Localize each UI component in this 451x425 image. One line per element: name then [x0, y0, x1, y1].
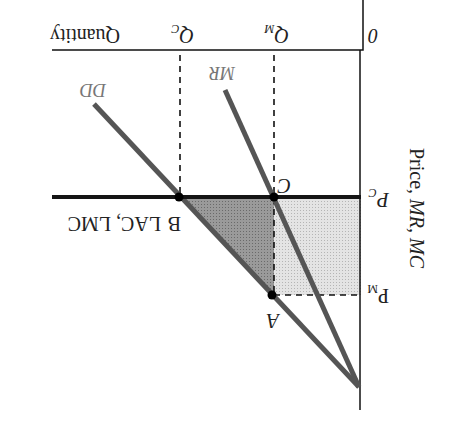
qm-label: QM — [264, 22, 289, 47]
price-axis-label: Price, MR, MC — [406, 148, 428, 269]
point-c — [270, 193, 279, 202]
quantity-axis-label: Quantity — [50, 24, 120, 47]
point-a-label: A — [266, 310, 281, 332]
price-axis-label-prefix: Price, — [406, 148, 428, 199]
qc-sub: C — [171, 22, 180, 36]
qm-q: Q — [274, 25, 289, 47]
qc-label: QC — [171, 22, 194, 47]
price-axis-label-italic: MR, MC — [406, 198, 428, 269]
origin-label: 0 — [368, 25, 378, 47]
point-a — [268, 291, 277, 300]
monopoly-profit-region — [274, 197, 361, 295]
pc-p: P — [377, 189, 390, 211]
cost-curve-label: LAC, LMC — [68, 213, 161, 235]
dd-label: DD — [80, 80, 107, 100]
mr-label: MR — [209, 63, 236, 83]
pm-sub: M — [367, 282, 378, 296]
pc-label: PC — [368, 186, 390, 211]
point-b-label: B — [168, 213, 181, 235]
pm-label: PM — [367, 282, 389, 307]
qm-sub: M — [264, 22, 276, 36]
point-c-label: C — [277, 175, 291, 197]
pc-sub: C — [368, 186, 377, 200]
monopoly-diagram: 0 QM QC Quantity MR DD C B LAC, LMC A PC… — [0, 0, 451, 425]
qc-q: Q — [179, 25, 194, 47]
point-b — [175, 193, 184, 202]
pm-p: P — [378, 285, 389, 307]
